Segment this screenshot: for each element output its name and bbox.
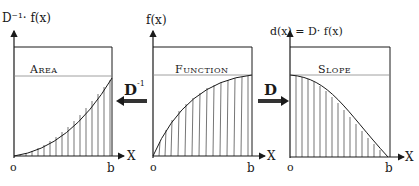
panel-area: D⁻¹· f(x) Area X o b bbox=[2, 11, 136, 175]
origin-label: o bbox=[287, 161, 294, 174]
x-axis-label: X bbox=[405, 150, 414, 164]
arrow-left-icon bbox=[116, 96, 124, 106]
y-axis-label: D⁻¹· f(x) bbox=[2, 11, 51, 25]
x-axis-label: X bbox=[267, 149, 276, 163]
end-label: b bbox=[107, 161, 115, 175]
function-hatching bbox=[159, 76, 248, 156]
y-axis-label: d(x) = D· f(x) bbox=[270, 25, 343, 38]
slope-hatching bbox=[296, 76, 380, 157]
operator-label: D bbox=[264, 81, 277, 99]
arrow-shaft bbox=[121, 99, 147, 103]
x-axis-label: X bbox=[127, 149, 136, 163]
panel-slope: d(x) = D· f(x) Slope X o b bbox=[270, 25, 414, 175]
panel-title: Area bbox=[29, 63, 58, 76]
panel-function: f(x) Function X o b bbox=[146, 13, 276, 175]
y-axis-label: f(x) bbox=[146, 13, 167, 27]
slope-curve bbox=[290, 75, 388, 157]
derivative-operator: D bbox=[258, 81, 289, 106]
origin-label: o bbox=[150, 161, 157, 174]
function-curve bbox=[153, 75, 252, 156]
origin-label: o bbox=[10, 161, 17, 174]
arrow-shaft bbox=[258, 99, 283, 103]
panel-title: Slope bbox=[318, 63, 351, 76]
panel-title: Function bbox=[175, 63, 229, 76]
operator-label: D bbox=[124, 81, 137, 99]
inverse-operator: D -1 bbox=[116, 79, 147, 106]
diagram-canvas: D⁻¹· f(x) Area X o b D -1 bbox=[0, 0, 419, 186]
end-label: b bbox=[385, 161, 393, 175]
end-label: b bbox=[247, 161, 255, 175]
area-curve bbox=[14, 78, 112, 156]
area-hatching bbox=[20, 80, 110, 156]
arrow-right-icon bbox=[281, 96, 289, 106]
operator-superscript: -1 bbox=[137, 79, 145, 88]
